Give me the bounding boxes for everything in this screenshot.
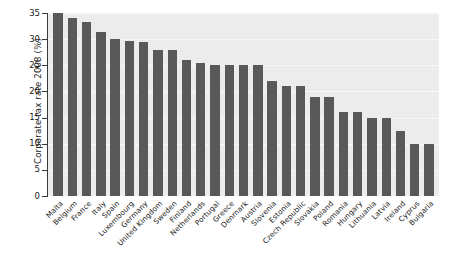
y-axis-tick-label: 5 xyxy=(35,164,40,174)
bar xyxy=(310,97,319,196)
bar xyxy=(139,42,148,196)
bar-series xyxy=(48,13,439,196)
bar-slot xyxy=(151,13,165,196)
bar xyxy=(210,65,219,196)
bar xyxy=(353,112,362,196)
bar xyxy=(225,65,234,196)
bar xyxy=(324,97,333,196)
y-axis-tick-label: 35 xyxy=(29,8,40,18)
y-axis-tick: 35 xyxy=(42,13,47,14)
bar-chart-figure: Corporate tax rate 2008 (%) 051015202530… xyxy=(0,0,449,266)
bar xyxy=(367,118,376,196)
bar-slot xyxy=(265,13,279,196)
plot-area xyxy=(48,13,439,196)
bar xyxy=(239,65,248,196)
bar-slot xyxy=(251,13,265,196)
bar-slot xyxy=(294,13,308,196)
bar-slot xyxy=(222,13,236,196)
bar-slot xyxy=(137,13,151,196)
y-axis-tick-label: 25 xyxy=(29,60,40,70)
bar-slot xyxy=(379,13,393,196)
bar-slot xyxy=(322,13,336,196)
y-axis-tick: 25 xyxy=(42,65,47,66)
bar-slot xyxy=(365,13,379,196)
bar-slot xyxy=(208,13,222,196)
bar xyxy=(424,144,433,196)
y-axis-tick: 20 xyxy=(42,91,47,92)
bar-slot xyxy=(308,13,322,196)
bar-slot xyxy=(165,13,179,196)
bar xyxy=(68,18,77,196)
bar xyxy=(168,50,177,196)
y-axis-tick: 30 xyxy=(42,39,47,40)
y-axis-tick: 10 xyxy=(42,144,47,145)
y-axis-tick-label: 15 xyxy=(29,112,40,122)
bar-slot xyxy=(422,13,436,196)
y-axis-tick: 5 xyxy=(42,170,47,171)
bar xyxy=(296,86,305,196)
bar-slot xyxy=(194,13,208,196)
bar xyxy=(382,118,391,196)
y-axis-tick-label: 0 xyxy=(35,191,40,201)
bar xyxy=(410,144,419,196)
bar-slot xyxy=(108,13,122,196)
bar xyxy=(182,60,191,196)
bar-slot xyxy=(393,13,407,196)
y-axis-tick-label: 10 xyxy=(29,138,40,148)
bar-slot xyxy=(179,13,193,196)
bar xyxy=(96,32,105,196)
bar xyxy=(396,131,405,196)
y-axis-tick-label: 20 xyxy=(29,86,40,96)
bar-slot xyxy=(236,13,250,196)
x-axis-label-slot: Bulgaria xyxy=(422,197,436,263)
y-axis-tick-label: 30 xyxy=(29,34,40,44)
bar-slot xyxy=(408,13,422,196)
bar xyxy=(282,86,291,196)
bar xyxy=(82,22,91,196)
bar-slot xyxy=(94,13,108,196)
bar xyxy=(153,50,162,196)
bar xyxy=(125,41,134,196)
bar-slot xyxy=(122,13,136,196)
y-axis-tick: 0 xyxy=(42,196,47,197)
bar-slot xyxy=(279,13,293,196)
y-axis-tick: 15 xyxy=(42,118,47,119)
x-axis-labels: MaltaBelgiumFranceItalySpainLuxembourgGe… xyxy=(48,197,439,263)
bar xyxy=(339,112,348,196)
bar-slot xyxy=(80,13,94,196)
bar xyxy=(196,63,205,196)
bar-slot xyxy=(65,13,79,196)
bar xyxy=(53,13,62,196)
bar xyxy=(110,39,119,196)
bar xyxy=(253,65,262,196)
bar-slot xyxy=(336,13,350,196)
bar-slot xyxy=(51,13,65,196)
bar-slot xyxy=(351,13,365,196)
bar xyxy=(267,81,276,196)
